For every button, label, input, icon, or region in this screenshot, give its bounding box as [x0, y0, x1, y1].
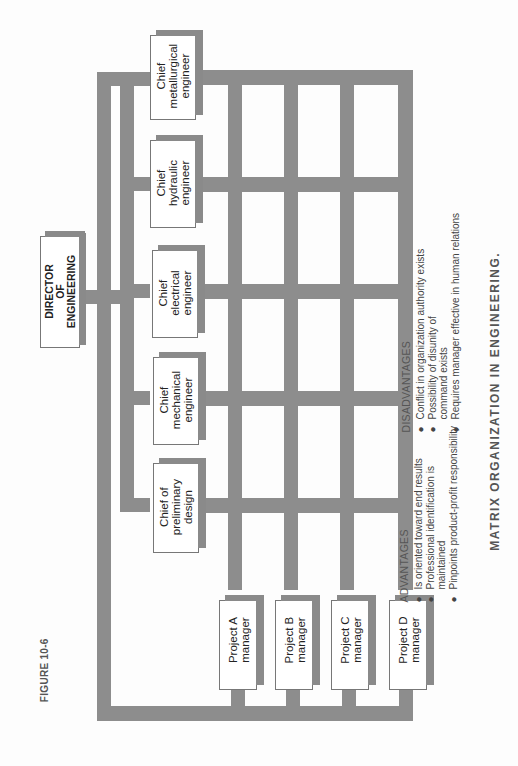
disadvantage-item: ●Requires manager effective in human rel… [449, 223, 461, 433]
chief-line3: engineer [180, 34, 192, 119]
advantage-item: ●Professional identification is maintain… [424, 433, 447, 603]
arm-metallurgical-left [120, 72, 150, 86]
chief-line2: mechanical [170, 358, 182, 443]
advantage-item: ●Pinpoints product-profit responsibility [447, 433, 459, 603]
outer-spine [97, 72, 111, 721]
project-line1: Project D [397, 600, 409, 680]
arm-mechanical-left [120, 391, 150, 405]
chief-line1: Chief [155, 34, 167, 119]
chief-box-electrical: Chief electrical engineer [152, 250, 198, 338]
chief-line1: Chief of [158, 465, 170, 550]
project-box-a: Project A manager [219, 600, 257, 690]
project-line1: Project B [283, 600, 295, 680]
grid-col-c [340, 70, 354, 590]
figure-label: FIGURE 10-6 [40, 635, 51, 705]
chief-line1: Chief [155, 141, 167, 226]
stub-b [286, 690, 300, 708]
chief-line3: engineer [180, 141, 192, 226]
stub-a [231, 690, 245, 708]
figure-caption: MATRIX ORGANIZATION IN ENGINEERING. [489, 251, 502, 551]
chief-line1: Chief [158, 358, 170, 443]
advantages-block: ADVANTAGES ●Is oriented toward end resul… [398, 433, 463, 603]
project-line2: manager [409, 600, 421, 680]
disadvantages-block: DISADVANTAGES ●Conflict in organization … [400, 223, 465, 433]
project-box-d: Project D manager [389, 600, 427, 690]
project-line2: manager [239, 600, 251, 680]
project-box-b: Project B manager [275, 600, 313, 690]
director-box: DIRECTOR OF ENGINEERING [40, 236, 80, 348]
director-line3: ENGINEERING [67, 237, 78, 347]
stub-d [399, 690, 413, 708]
chief-line2: metallurgical [167, 34, 179, 119]
project-line2: manager [295, 600, 307, 680]
disadvantage-item: ●Possibility of disunity of command exis… [426, 223, 449, 433]
matrix-org-chart: DIRECTOR OF ENGINEERING Chief metallurgi… [0, 0, 518, 766]
chief-line3: engineer [182, 251, 194, 336]
chief-line2: preliminary [170, 465, 182, 550]
project-bottom-bar [97, 706, 413, 721]
chief-box-preliminary: Chief of preliminary design [153, 463, 199, 553]
arm-electrical-left [120, 284, 150, 298]
grid-col-b [284, 70, 298, 590]
chief-line2: hydraulic [167, 141, 179, 226]
chief-box-mechanical: Chief mechanical engineer [153, 357, 199, 445]
disadvantages-heading: DISADVANTAGES [400, 223, 412, 433]
arm-hydraulic-left [120, 177, 150, 191]
chief-box-hydraulic: Chief hydraulic engineer [150, 140, 196, 228]
project-line1: Project C [339, 600, 351, 680]
chief-line1: Chief [157, 251, 169, 336]
advantages-heading: ADVANTAGES [398, 433, 410, 603]
chief-box-metallurgical: Chief metallurgical engineer [150, 35, 196, 120]
project-line2: manager [351, 600, 363, 680]
project-line1: Project A [227, 600, 239, 680]
chief-line2: electrical [169, 251, 181, 336]
grid-col-a [228, 70, 242, 590]
arm-preliminary-left [120, 498, 150, 512]
stub-c [342, 690, 356, 708]
chief-line3: engineer [183, 358, 195, 443]
advantage-item: ●Is oriented toward end results [413, 433, 425, 603]
chief-line3: design [183, 465, 195, 550]
project-box-c: Project C manager [331, 600, 369, 690]
disadvantage-item: ●Conflict in organization authority exis… [415, 223, 427, 433]
